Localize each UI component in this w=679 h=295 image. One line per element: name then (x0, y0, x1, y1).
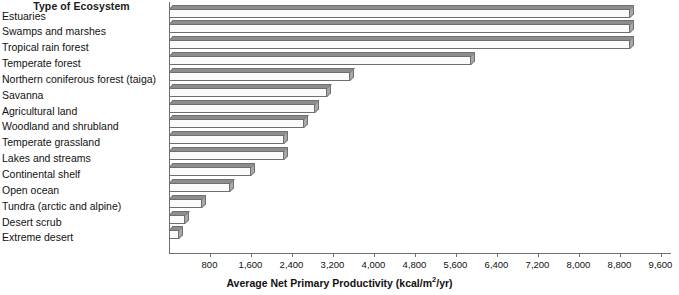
bar-side-face (185, 211, 189, 224)
x-axis-tick (620, 253, 621, 257)
bar (169, 9, 630, 18)
x-axis-line (169, 253, 671, 254)
bar (169, 199, 202, 208)
x-axis-tick-label: 9,600 (636, 260, 679, 270)
bar-side-face (350, 68, 354, 81)
x-axis-tick (292, 253, 293, 257)
y-axis-line (169, 2, 170, 253)
bar (169, 72, 351, 81)
bar-side-face (327, 84, 331, 97)
x-axis-tick (579, 253, 580, 257)
bar-side-face (630, 36, 634, 49)
bar (169, 183, 231, 192)
bar (169, 167, 251, 176)
x-axis-title: Average Net Primary Productivity (kcal/m… (0, 275, 679, 289)
x-axis-tick (456, 253, 457, 257)
bar-side-face (202, 195, 206, 208)
x-axis-tick (538, 253, 539, 257)
x-axis-tick (210, 253, 211, 257)
bar (169, 24, 630, 33)
x-axis-tick (251, 253, 252, 257)
bar-side-face (284, 147, 288, 160)
x-axis-tick (497, 253, 498, 257)
bar (169, 104, 315, 113)
bar-side-face (251, 163, 255, 176)
bar-side-face (304, 115, 308, 128)
bar-side-face (471, 52, 475, 65)
plot-area: 8001,6002,4003,2004,0004,8005,6006,4007,… (0, 0, 679, 295)
bar (169, 88, 328, 97)
x-axis-tick (374, 253, 375, 257)
x-axis-tick (333, 253, 334, 257)
bar (169, 119, 305, 128)
bar (169, 135, 284, 144)
bar (169, 56, 471, 65)
bar (169, 215, 186, 224)
bar-side-face (284, 131, 288, 144)
bar-side-face (230, 179, 234, 192)
x-axis-tick (661, 253, 662, 257)
bar (169, 230, 179, 239)
bar (169, 151, 284, 160)
x-axis-tick (415, 253, 416, 257)
npp-bar-chart: Type of Ecosystem EstuariesSwamps and ma… (0, 0, 679, 295)
bar-side-face (179, 226, 183, 239)
bar-side-face (630, 20, 634, 33)
bar (169, 40, 630, 49)
